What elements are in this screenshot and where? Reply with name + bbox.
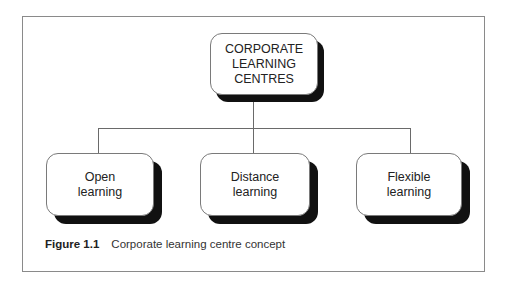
distance-learning-node: Distance learning (200, 153, 310, 216)
connector-flexible (410, 128, 411, 153)
figure-caption: Figure 1.1Corporate learning centre conc… (45, 238, 285, 250)
flexible-learning-node: Flexible learning (356, 153, 462, 216)
connector-horizontal (98, 128, 411, 129)
root-node: CORPORATE LEARNING CENTRES (210, 33, 318, 95)
connector-root-down (253, 102, 254, 128)
open-learning-node: Open learning (46, 153, 154, 216)
figure-number: Figure 1.1 (45, 238, 99, 250)
connector-open (98, 128, 99, 153)
figure-caption-text: Corporate learning centre concept (111, 238, 285, 250)
connector-distance (253, 128, 254, 153)
